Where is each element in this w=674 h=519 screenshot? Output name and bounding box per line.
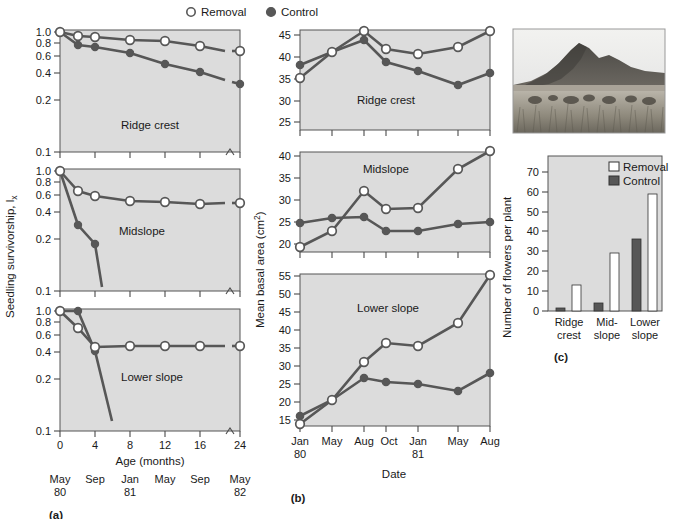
legend-swatch-control: [609, 176, 619, 185]
b-xtick-0: Jan: [291, 435, 309, 447]
b-xtick-2: Aug: [354, 435, 374, 447]
panel-a-ylabel-text: Seedling survivorship, l: [4, 200, 16, 318]
b1-ytick-4: 45: [279, 29, 291, 41]
b2-ytick-2: 30: [279, 194, 291, 206]
b1-ytick-3: 40: [279, 51, 291, 63]
a-date-3-line1: May: [155, 473, 176, 485]
chart-b-lower-slope: 15 20 25 30 35 40 45 50 55 Jan May Aug O…: [266, 270, 492, 445]
c-xtick-0-line2: crest: [557, 329, 581, 341]
b2-ytick-0: 20: [279, 238, 291, 250]
panel-a-ylabel: Seedling survivorship, lx: [2, 170, 18, 320]
panel-b: Mean basal area (cm2) 25 30 35 40 45: [252, 0, 500, 519]
b-xtick-4: Jan: [409, 435, 427, 447]
a-date-0-line1: May: [50, 473, 71, 485]
panel-b-label: (b): [291, 492, 306, 504]
c-xtick-1-line2: slope: [594, 329, 620, 341]
b3-ytick-8: 55: [279, 270, 291, 282]
c-ytick-1: 10: [527, 285, 539, 297]
b3-ytick-1: 20: [279, 396, 291, 408]
b-xtick-5: May: [448, 435, 469, 447]
a2-ytick-4: 0.2: [36, 233, 51, 245]
panel-c-legend-control-label: Control: [623, 175, 660, 187]
bar-control-lower-slope: [632, 239, 641, 311]
c-ytick-2: 20: [527, 265, 539, 277]
c-xtick-2-line1: Lower: [630, 316, 660, 328]
panel-b-ylabel-end: ): [254, 211, 266, 215]
a-date-5-line1: May: [230, 473, 251, 485]
a-xtick-2: 8: [127, 439, 133, 451]
chart-a-lower-slope: 1.0 0.8 0.6 0.4 0.2 0.1 0 4 8 12 16 24 A…: [22, 305, 244, 440]
a3-subpanel-title: Lower slope: [121, 371, 183, 383]
b3-ytick-3: 30: [279, 360, 291, 372]
b1-ytick-0: 25: [279, 116, 291, 128]
chart-b-ridge-crest: 25 30 35 40 45 Ridge crest: [266, 26, 492, 140]
c-ytick-5: 50: [527, 206, 539, 218]
a2-ytick-2: 0.6: [36, 189, 51, 201]
c-ytick-7: 70: [527, 166, 539, 178]
legend-swatch-removal: [609, 162, 619, 171]
b3-ytick-5: 40: [279, 324, 291, 336]
a1-ytick-3: 0.4: [36, 67, 51, 79]
a3-ytick-2: 0.6: [36, 329, 51, 341]
b-xtick-6: Aug: [480, 435, 500, 447]
panel-a-ylabel-subscript: x: [9, 195, 19, 200]
svg-text:Seedling survivorship, lx: Seedling survivorship, lx: [4, 195, 19, 318]
a3-ytick-4: 0.2: [36, 373, 51, 385]
a-date-4-line1: Sep: [190, 473, 210, 485]
b1-ytick-2: 35: [279, 73, 291, 85]
a-date-0-line2: 80: [54, 486, 66, 498]
c-xtick-2-line2: slope: [632, 329, 658, 341]
chart-a-midslope: 1.0 0.8 0.6 0.4 0.2 0.1 Midslope: [22, 165, 244, 300]
a-date-2-line2: 81: [124, 486, 136, 498]
a-date-1-line1: Sep: [85, 473, 105, 485]
b3-ytick-2: 25: [279, 378, 291, 390]
habitat-photograph: [513, 29, 665, 133]
b-date-4-line2: 81: [412, 448, 424, 460]
c-ytick-3: 30: [527, 245, 539, 257]
a3-ytick-3: 0.4: [36, 346, 51, 358]
a-xtick-5: 24: [234, 439, 246, 451]
b-xtick-1: May: [322, 435, 343, 447]
bar-control-midslope: [594, 303, 603, 311]
panel-a-label: (a): [49, 509, 63, 519]
c-xtick-0-line1: Ridge: [555, 316, 584, 328]
c-ytick-4: 40: [527, 225, 539, 237]
b-xtick-3: Oct: [380, 435, 397, 447]
a2-ytick-3: 0.4: [36, 206, 51, 218]
panel-b-ylabel-text: Mean basal area (cm: [254, 220, 266, 328]
c-ytick-0: 0: [533, 305, 539, 317]
a-date-2-line1: Jan: [121, 473, 139, 485]
a3-ytick-5: 0.1: [36, 425, 51, 437]
a2-ytick-1: 0.8: [36, 176, 51, 188]
b2-ytick-3: 35: [279, 172, 291, 184]
chart-c-flowers: 0 10 20 30 40 50 60 70 Removal Control R…: [514, 152, 674, 367]
panel-c-label: (c): [554, 351, 568, 363]
a1-ytick-1: 0.8: [36, 37, 51, 49]
b3-ytick-6: 45: [279, 306, 291, 318]
b3-ytick-7: 50: [279, 288, 291, 300]
panel-c-legend-removal-label: Removal: [623, 161, 668, 173]
b2-ytick-4: 40: [279, 150, 291, 162]
b2-ytick-1: 25: [279, 216, 291, 228]
b1-ytick-1: 30: [279, 95, 291, 107]
panel-a-xlabel: Age (months): [115, 455, 184, 467]
panel-c: Number of flowers per plant 0 10 20 30 4…: [498, 150, 674, 380]
bar-removal-midslope: [610, 253, 619, 311]
b2-subpanel-title: Midslope: [363, 163, 409, 175]
a-xtick-3: 12: [159, 439, 171, 451]
a-xtick-4: 16: [194, 439, 206, 451]
b-date-0-line2: 80: [294, 448, 306, 460]
c-ytick-6: 60: [527, 186, 539, 198]
svg-text:Mean basal area (cm2): Mean basal area (cm2): [252, 211, 266, 328]
panel-b-xlabel: Date: [382, 468, 406, 480]
panel-c-ylabel-text: Number of flowers per plant: [501, 196, 513, 338]
a1-ytick-2: 0.6: [36, 50, 51, 62]
a2-ytick-5: 0.1: [36, 285, 51, 297]
b1-subpanel-title: Ridge crest: [357, 94, 416, 106]
bar-control-ridge-crest: [556, 308, 565, 311]
c-xtick-1-line1: Mid-: [596, 316, 618, 328]
b3-ytick-4: 35: [279, 342, 291, 354]
a1-ytick-5: 0.1: [36, 146, 51, 158]
b3-subpanel-title: Lower slope: [357, 302, 419, 314]
chart-a-ridge-crest: 1.0 0.8 0.6 0.4 0.2 0.1: [22, 26, 244, 161]
